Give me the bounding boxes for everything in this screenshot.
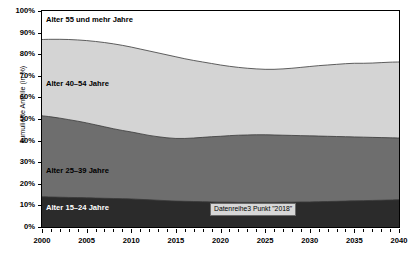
x-tick-label: 2000 [34, 236, 51, 245]
x-tick-label: 2035 [346, 236, 363, 245]
series-label-alter-25-39: Alter 25–39 Jahre [46, 166, 109, 175]
x-tick-label: 2010 [123, 236, 140, 245]
series-label-alter-15-24: Alter 15–24 Jahre [46, 203, 109, 212]
series-label-alter-55-plus: Alter 55 und mehr Jahre [46, 15, 133, 24]
x-axis-tick-labels: 200020052010201520202025203020352040 [0, 0, 412, 260]
x-tick-label: 2030 [301, 236, 318, 245]
x-tick-label: 2040 [391, 236, 408, 245]
x-tick-label: 2025 [257, 236, 274, 245]
x-tick-label: 2020 [212, 236, 229, 245]
chart-canvas: kumulierte Anteile (in %) 0%10%20%30%40%… [0, 0, 412, 260]
series-label-alter-40-54: Alter 40–54 Jahre [46, 79, 109, 88]
x-tick-label: 2015 [167, 236, 184, 245]
x-tick-label: 2005 [78, 236, 95, 245]
datapoint-tooltip: Datenreihe3 Punkt "2018" [210, 203, 296, 216]
